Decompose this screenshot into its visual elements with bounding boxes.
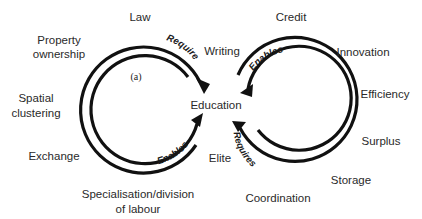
left-enables-label: Enables [156,139,190,166]
node-surplus: Surplus [362,134,401,148]
panel-label: (a) [130,71,141,82]
node-property-ownership-line2: ownership [33,47,85,61]
node-law: Law [129,10,150,24]
node-spatial-clustering-line2: clustering [11,106,60,120]
left-top-arrowhead-icon [196,78,210,94]
node-innovation: Innovation [336,45,389,59]
node-credit: Credit [276,10,307,24]
node-coordination: Coordination [245,191,310,205]
node-spatial-clustering-line1: Spatial [18,91,53,105]
node-writing: Writing [204,44,240,58]
right-top-arrowhead-icon [240,84,253,97]
node-property-ownership-line1: Property [37,33,80,47]
right-bottom-arrowhead-icon [232,121,246,132]
node-exchange: Exchange [28,149,79,163]
node-efficiency: Efficiency [360,87,409,101]
node-elite: Elite [209,151,231,165]
center-node-education: Education [190,98,241,112]
node-specialisation-line1: Specialisation/division [82,187,195,201]
node-storage: Storage [331,173,371,187]
node-specialisation-line2: of labour [116,202,161,216]
